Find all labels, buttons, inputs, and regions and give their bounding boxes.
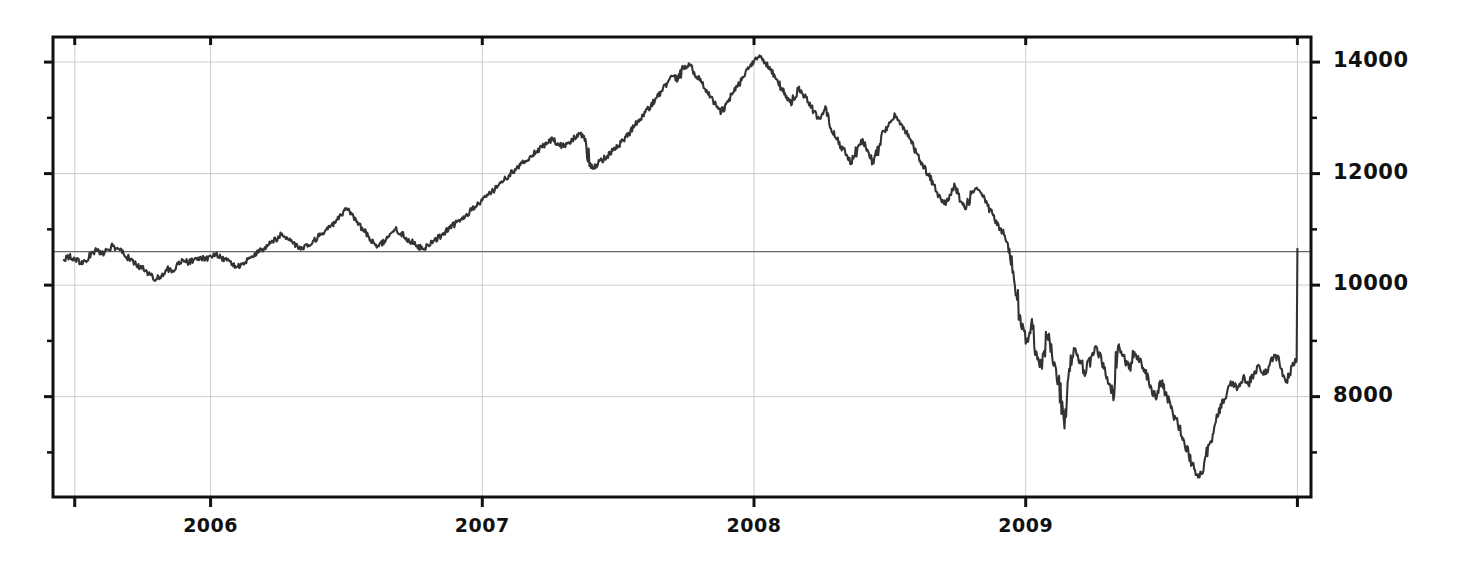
y-tick-label: 10000 bbox=[1333, 271, 1409, 295]
y-tick-label: 8000 bbox=[1333, 383, 1393, 407]
x-tick-label: 2006 bbox=[183, 514, 238, 536]
y-tick-label: 14000 bbox=[1333, 48, 1409, 72]
chart-svg bbox=[0, 0, 1458, 564]
x-tick-label: 2009 bbox=[998, 514, 1053, 536]
x-tick-label: 2007 bbox=[455, 514, 510, 536]
plot-background bbox=[53, 37, 1311, 497]
y-tick-label: 12000 bbox=[1333, 160, 1409, 184]
x-tick-label: 2008 bbox=[727, 514, 782, 536]
dow-jones-line-chart: 8000100001200014000 2006200720082009 bbox=[0, 0, 1458, 564]
chart-page: 8000100001200014000 2006200720082009 bbox=[0, 0, 1458, 564]
